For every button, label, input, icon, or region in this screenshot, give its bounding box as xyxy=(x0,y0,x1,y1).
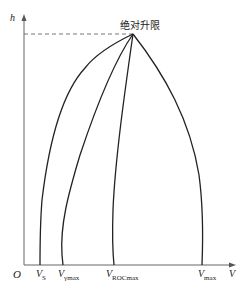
absolute-ceiling-label: 绝对升限 xyxy=(120,17,160,32)
label-v-roc-max-sub: ROCmax xyxy=(112,274,138,282)
label-v-gamma-max: Vγmax xyxy=(58,268,79,282)
x-axis-label: V xyxy=(229,268,235,279)
x-axis-arrow-icon xyxy=(229,263,236,268)
y-axis-label: h xyxy=(10,12,15,23)
label-v-max-sub: max xyxy=(204,274,216,282)
curve-v-s xyxy=(40,34,133,265)
label-v-s: VS xyxy=(36,268,46,282)
y-axis-arrow-icon xyxy=(22,14,27,21)
origin-label: O xyxy=(13,268,21,280)
curve-v-gamma-max xyxy=(62,34,133,265)
label-v-gamma-max-sub: γmax xyxy=(64,274,79,282)
curve-v-max xyxy=(133,34,203,265)
label-v-s-sub: S xyxy=(42,274,46,282)
flight-envelope-diagram xyxy=(0,0,250,293)
label-v-roc-max: VROCmax xyxy=(106,268,139,282)
label-v-max: Vmax xyxy=(198,268,216,282)
curve-v-roc-max xyxy=(113,34,133,265)
